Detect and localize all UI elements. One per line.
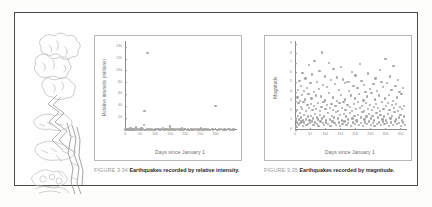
- data-point: [357, 101, 359, 103]
- data-point: [330, 79, 332, 81]
- data-point: [343, 120, 345, 122]
- data-point: [341, 123, 343, 125]
- caption-text: Earthquakes recorded by magnitude.: [300, 167, 395, 173]
- data-point: [358, 124, 360, 126]
- data-point: [141, 128, 143, 130]
- data-point: [143, 110, 145, 112]
- data-point: [340, 66, 342, 68]
- data-point: [309, 82, 311, 84]
- data-point: [302, 101, 304, 103]
- data-point: [324, 99, 326, 101]
- data-point: [373, 125, 375, 127]
- data-point: [232, 128, 234, 130]
- data-point: [324, 108, 326, 110]
- data-point: [311, 120, 313, 122]
- data-point: [366, 123, 368, 125]
- data-point: [382, 108, 384, 110]
- data-point: [344, 109, 346, 111]
- data-point: [378, 94, 380, 96]
- data-point: [360, 80, 362, 82]
- data-point: [301, 72, 303, 74]
- data-point: [370, 117, 372, 119]
- x-tick-label: 100: [322, 130, 328, 136]
- data-point: [348, 81, 350, 83]
- x-tick-label: 350: [397, 130, 403, 136]
- data-point: [364, 91, 366, 93]
- data-point: [359, 63, 361, 65]
- data-point: [339, 125, 341, 127]
- x-tick-label: 200: [352, 130, 358, 136]
- data-point: [392, 65, 394, 67]
- x-tick-label: 200: [182, 130, 188, 136]
- data-point: [319, 110, 321, 112]
- y-tick-label: 40: [118, 104, 125, 108]
- data-point: [317, 125, 319, 127]
- data-point: [351, 110, 353, 112]
- data-point: [388, 125, 390, 127]
- data-point: [359, 107, 361, 109]
- x-tick-label: 100: [152, 130, 158, 136]
- data-point: [305, 118, 307, 120]
- data-point: [379, 110, 381, 112]
- data-point: [337, 117, 339, 119]
- data-point: [382, 86, 384, 88]
- data-point: [381, 101, 383, 103]
- data-point: [358, 93, 360, 95]
- data-point: [402, 87, 404, 89]
- data-point: [398, 116, 400, 118]
- y-axis-line: [125, 41, 126, 130]
- data-point: [369, 88, 371, 90]
- data-point: [386, 82, 388, 84]
- figure-caption-3-35: FIGURE 3.35 Earthquakes recorded by magn…: [264, 167, 414, 175]
- data-point: [332, 96, 334, 98]
- data-point: [380, 124, 382, 126]
- data-point: [299, 112, 301, 114]
- data-point: [342, 78, 344, 80]
- plot-area-magnitude: 0123456789050100150200250300350: [295, 44, 405, 130]
- data-point: [349, 106, 351, 108]
- data-point: [143, 124, 145, 126]
- data-point: [353, 115, 355, 117]
- x-axis-title-relative-intensity: Days since January 1: [125, 149, 235, 155]
- data-point: [399, 114, 401, 116]
- data-point: [312, 124, 314, 126]
- data-point: [321, 51, 323, 53]
- x-tick-label: 0: [294, 130, 296, 136]
- data-point: [384, 97, 386, 99]
- data-point: [295, 126, 297, 128]
- data-point: [296, 109, 298, 111]
- data-point: [360, 116, 362, 118]
- data-point: [328, 62, 330, 64]
- x-tick-label: 250: [367, 130, 373, 136]
- data-point: [353, 103, 355, 105]
- data-point: [304, 77, 306, 79]
- data-point: [362, 99, 364, 101]
- data-point: [400, 93, 402, 95]
- x-tick-label: 150: [167, 130, 173, 136]
- data-point: [388, 94, 390, 96]
- y-tick-label: 8: [290, 52, 295, 56]
- data-point: [389, 75, 391, 77]
- book-page: Relative intensity (millions) 2040608010…: [0, 0, 432, 207]
- data-point: [350, 125, 352, 127]
- data-point: [304, 98, 306, 100]
- data-point: [393, 111, 395, 113]
- data-point: [368, 113, 370, 115]
- data-point: [340, 94, 342, 96]
- data-point: [316, 81, 318, 83]
- data-point: [306, 104, 308, 106]
- data-point: [356, 87, 358, 89]
- data-point: [338, 102, 340, 104]
- data-point: [373, 106, 375, 108]
- data-point: [301, 94, 303, 96]
- x-tick-label: 250: [197, 130, 203, 136]
- data-point: [371, 109, 373, 111]
- data-point: [374, 77, 376, 79]
- data-point: [344, 98, 346, 100]
- data-point: [395, 103, 397, 105]
- data-point: [297, 102, 299, 104]
- data-point: [379, 114, 381, 116]
- data-point: [352, 85, 354, 87]
- data-point: [302, 125, 304, 127]
- x-axis-title-magnitude: Days since January 1: [295, 149, 405, 155]
